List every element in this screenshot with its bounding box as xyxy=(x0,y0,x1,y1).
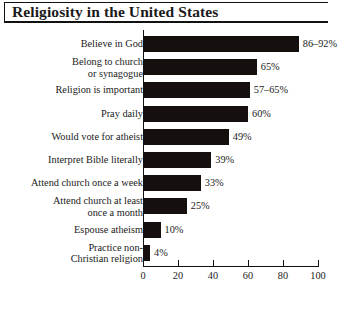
category-label: Religion is important xyxy=(0,79,143,95)
title-rule-left xyxy=(4,2,5,23)
bar xyxy=(143,198,187,214)
bar xyxy=(143,175,201,191)
axis-tick-label: 40 xyxy=(193,270,233,281)
bar-value-label: 49% xyxy=(233,129,252,145)
category-label: Interpret Bible literally xyxy=(0,149,143,165)
chart-figure: Religiosity in the United States Believe… xyxy=(0,0,345,310)
category-label: Practice non- Christian religion xyxy=(0,242,143,265)
bar-row: Belong to church or synagogue65% xyxy=(0,56,345,79)
axis-tick-label: 80 xyxy=(263,270,303,281)
bar-row: Practice non- Christian religion4% xyxy=(0,242,345,265)
bar-value-label: 25% xyxy=(191,198,210,214)
bar-value-label: 65% xyxy=(261,59,280,75)
figure-caption xyxy=(4,301,342,310)
bar-row: Would vote for atheist49% xyxy=(0,126,345,149)
bar-value-label: 57–65% xyxy=(254,82,288,98)
category-label: Would vote for atheist xyxy=(0,126,143,142)
axis-tick-label: 100 xyxy=(298,270,338,281)
bar xyxy=(143,245,150,261)
bar xyxy=(143,82,250,98)
bar-row: Espouse atheism10% xyxy=(0,219,345,242)
bar-row: Believe in God86–92% xyxy=(0,33,345,56)
category-label: Attend church at least once a month xyxy=(0,195,143,218)
bar-row: Attend church at least once a month25% xyxy=(0,195,345,218)
plot-area: Believe in God86–92%Belong to church or … xyxy=(0,30,345,270)
category-label: Believe in God xyxy=(0,33,143,49)
bar-value-label: 10% xyxy=(165,222,184,238)
category-label: Attend church once a week xyxy=(0,172,143,188)
axis-tick-label: 0 xyxy=(123,270,163,281)
bar xyxy=(143,59,257,75)
bar xyxy=(143,152,211,168)
bar xyxy=(143,129,229,145)
bar-row: Interpret Bible literally39% xyxy=(0,149,345,172)
bar xyxy=(143,106,248,122)
bar-row: Religion is important57–65% xyxy=(0,79,345,102)
title-rule-bottom xyxy=(4,21,328,23)
axis-horizontal-line xyxy=(143,266,319,267)
bar-value-label: 33% xyxy=(205,175,224,191)
bar-value-label: 39% xyxy=(215,152,234,168)
bar-value-label: 4% xyxy=(154,245,168,261)
axis-tick-label: 60 xyxy=(228,270,268,281)
category-label: Espouse atheism xyxy=(0,219,143,235)
title-block: Religiosity in the United States xyxy=(4,2,328,24)
bar-value-label: 60% xyxy=(252,106,271,122)
bar-row: Pray daily60% xyxy=(0,103,345,126)
bar-row: Attend church once a week33% xyxy=(0,172,345,195)
bar-value-label: 86–92% xyxy=(303,36,337,52)
bar xyxy=(143,222,161,238)
axis-tick-label: 20 xyxy=(158,270,198,281)
bar xyxy=(143,36,299,52)
category-label: Pray daily xyxy=(0,103,143,119)
chart-title: Religiosity in the United States xyxy=(12,3,218,21)
category-label: Belong to church or synagogue xyxy=(0,56,143,79)
